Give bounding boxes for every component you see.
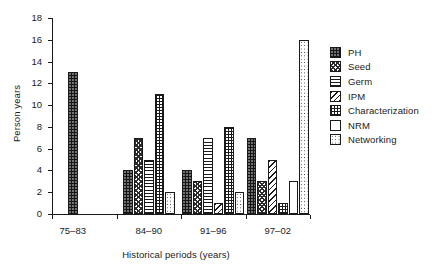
y-tick-label: 6: [37, 143, 42, 154]
bar: [224, 127, 234, 214]
y-tick-16: 16: [48, 40, 52, 41]
y-tick-2: 2: [48, 192, 52, 193]
y-tick-label: 2: [37, 186, 42, 197]
legend-item-characterization[interactable]: Characterization: [330, 103, 434, 118]
legend-label: Germ: [348, 76, 372, 87]
x-tick: [310, 215, 311, 219]
legend-label: Networking: [348, 134, 397, 145]
legend-label: IPM: [348, 91, 365, 102]
y-tick-label: 16: [31, 34, 42, 45]
bar: [134, 138, 144, 214]
x-group-label: 84–90: [136, 225, 162, 236]
y-axis-line: [52, 18, 53, 215]
bar: [289, 181, 299, 214]
bar: [123, 170, 133, 214]
bar: [278, 203, 288, 214]
x-group-label: 97–02: [265, 225, 291, 236]
bar: [214, 203, 224, 214]
legend-label: NRM: [348, 120, 370, 131]
legend-item-ipm[interactable]: IPM: [330, 89, 434, 104]
bar: [68, 72, 78, 214]
y-tick-label: 8: [37, 121, 42, 132]
legend-swatch-icon: [330, 76, 341, 87]
bar: [165, 192, 175, 214]
y-tick-label: 18: [31, 12, 42, 23]
legend-swatch-icon: [330, 134, 341, 145]
legend-label: Characterization: [348, 105, 419, 116]
legend-label: PH: [348, 47, 361, 58]
legend-item-networking[interactable]: Networking: [330, 133, 434, 148]
y-tick-8: 8: [48, 127, 52, 128]
x-axis-title: Historical periods (years): [36, 249, 316, 260]
legend-item-seed[interactable]: Seed: [330, 60, 434, 75]
bar: [235, 192, 245, 214]
bar: [182, 170, 192, 214]
y-tick-10: 10: [48, 105, 52, 106]
legend: PHSeedGermIPMCharacterizationNRMNetworki…: [330, 45, 434, 147]
x-tick: [52, 215, 53, 219]
bar: [247, 138, 257, 214]
legend-swatch-icon: [330, 105, 341, 116]
y-tick-label: 0: [37, 208, 42, 219]
legend-label: Seed: [348, 61, 371, 72]
y-tick-label: 10: [31, 99, 42, 110]
bar: [257, 181, 267, 214]
y-tick-6: 6: [48, 149, 52, 150]
y-tick-4: 4: [48, 170, 52, 171]
legend-item-germ[interactable]: Germ: [330, 74, 434, 89]
bar: [299, 40, 309, 214]
legend-swatch-icon: [330, 120, 341, 131]
y-tick-label: 12: [31, 77, 42, 88]
legend-swatch-icon: [330, 47, 341, 58]
plot-area: 024681012141618 75–8384–9091–9697–02: [52, 18, 310, 215]
legend-item-nrm[interactable]: NRM: [330, 118, 434, 133]
legend-item-ph[interactable]: PH: [330, 45, 434, 60]
y-tick-12: 12: [48, 83, 52, 84]
bar: [155, 94, 165, 214]
y-tick-label: 4: [37, 164, 42, 175]
legend-swatch-icon: [330, 91, 341, 102]
bar: [203, 138, 213, 214]
y-tick-label: 14: [31, 56, 42, 67]
x-group-label: 91–96: [200, 225, 226, 236]
bar: [144, 160, 154, 214]
x-tick: [181, 215, 182, 219]
y-tick-14: 14: [48, 62, 52, 63]
bar: [268, 160, 278, 214]
x-tick: [246, 215, 247, 219]
bar: [193, 181, 203, 214]
legend-swatch-icon: [330, 61, 341, 72]
x-tick: [117, 215, 118, 219]
y-tick-18: 18: [48, 18, 52, 19]
y-axis-title: Person years: [11, 54, 22, 174]
bar-chart-figure: Person years Historical periods (years) …: [0, 0, 434, 272]
x-group-label: 75–83: [60, 225, 86, 236]
